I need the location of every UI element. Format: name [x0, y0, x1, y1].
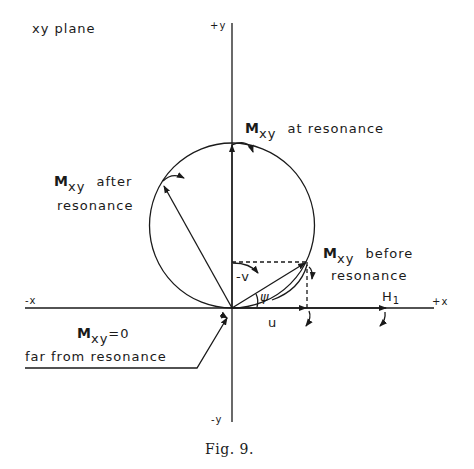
rotation-arrow-u	[306, 311, 310, 326]
rotation-arrow-origin	[221, 317, 227, 318]
label-h1: H1	[382, 290, 400, 303]
label-zero: Mxy=0	[77, 326, 130, 340]
figure-caption: Fig. 9.	[205, 442, 254, 456]
rotation-arrow-before	[309, 267, 312, 279]
axis-label-pos-y: +y	[210, 21, 226, 31]
vector-after-resonance	[164, 186, 232, 308]
label-after-resonance: Mxy after	[54, 174, 132, 188]
label-neg-v: -v	[236, 270, 250, 283]
label-at-resonance: Mxy at resonance	[245, 121, 384, 135]
label-psi: ψ	[260, 290, 270, 303]
label-far-from-resonance: far from resonance	[25, 350, 167, 363]
psi-arc	[256, 294, 258, 307]
plane-title: xy plane	[32, 22, 96, 35]
rotation-arrow-h1	[380, 312, 385, 326]
label-before-resonance: Mxy before	[323, 246, 413, 260]
diagram-canvas	[0, 0, 474, 469]
label-u: u	[268, 316, 277, 329]
label-after-resonance-2: resonance	[57, 199, 133, 212]
label-before-resonance-2: resonance	[331, 269, 407, 282]
axis-label-neg-x: -x	[25, 296, 37, 306]
axis-label-neg-y: -y	[211, 415, 222, 425]
axis-label-pos-x: +x	[432, 297, 448, 307]
